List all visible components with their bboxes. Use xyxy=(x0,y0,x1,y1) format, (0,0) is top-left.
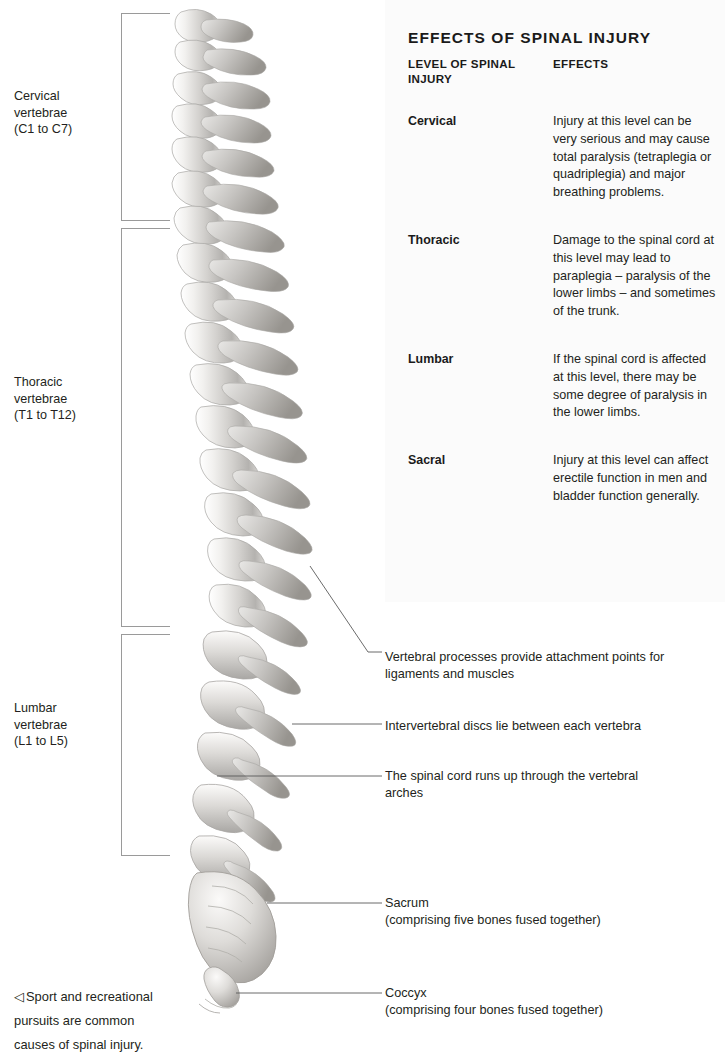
row-level-sacral: Sacral xyxy=(408,452,553,505)
bracket-lumbar xyxy=(121,634,170,856)
cervical-vertebrae-lower xyxy=(172,72,284,253)
row-level-lumbar: Lumbar xyxy=(408,351,553,422)
label-lumbar-line3: (L1 to L5) xyxy=(14,733,114,750)
leader-vertebral-processes xyxy=(310,566,382,652)
label-thoracic-line1: Thoracic xyxy=(14,374,114,391)
column-header-level-line2: injury xyxy=(408,72,553,87)
cervical-vertebrae-group xyxy=(175,9,266,75)
photo-caption-text1: Sport and recreational xyxy=(26,989,153,1004)
callout-sacrum-line2: (comprising five bones fused together) xyxy=(385,912,715,929)
photo-caption: ◁Sport and recreational pursuits are com… xyxy=(14,985,224,1053)
effects-of-spinal-injury-panel: EFFECTS OF SPINAL INJURY Level of spinal… xyxy=(385,0,725,602)
column-header-level-line1: Level of spinal xyxy=(408,57,553,72)
row-effect-sacral: Injury at this level can affect erectile… xyxy=(553,452,718,505)
row-level-thoracic: Thoracic xyxy=(408,232,553,321)
label-thoracic-line2: vertebrae xyxy=(14,391,114,408)
bracket-cervical xyxy=(121,13,170,221)
thoracic-vertebrae-group xyxy=(177,243,312,647)
table-header-row: Level of spinal injury Effects xyxy=(408,57,718,86)
table-row: Thoracic Damage to the spinal cord at th… xyxy=(408,232,718,321)
label-thoracic-line3: (T1 to T12) xyxy=(14,407,114,424)
callout-coccyx-line1: Coccyx xyxy=(385,985,715,1002)
column-header-level: Level of spinal injury xyxy=(408,57,553,86)
callout-coccyx-line2: (comprising four bones fused together) xyxy=(385,1002,715,1019)
callout-vertebral-processes: Vertebral processes provide attachment p… xyxy=(385,649,715,684)
label-cervical-vertebrae: Cervical vertebrae (C1 to C7) xyxy=(14,88,114,138)
label-lumbar-vertebrae: Lumbar vertebrae (L1 to L5) xyxy=(14,700,114,750)
label-cervical-line3: (C1 to C7) xyxy=(14,121,114,138)
table-row: Sacral Injury at this level can affect e… xyxy=(408,452,718,505)
row-effect-cervical: Injury at this level can be very serious… xyxy=(553,113,718,202)
callout-sacrum: Sacrum (comprising five bones fused toge… xyxy=(385,895,715,930)
panel-title: EFFECTS OF SPINAL INJURY xyxy=(408,29,651,47)
callout-sacrum-line1: Sacrum xyxy=(385,895,715,912)
triangle-marker-icon: ◁ xyxy=(14,990,24,1004)
label-thoracic-vertebrae: Thoracic vertebrae (T1 to T12) xyxy=(14,374,114,424)
callout-vertebral-processes-line1: Vertebral processes provide attachment p… xyxy=(385,649,715,666)
callout-intervertebral-discs: Intervertebral discs lie between each ve… xyxy=(385,718,715,735)
label-lumbar-line2: vertebrae xyxy=(14,717,114,734)
callout-spinal-cord-line1: The spinal cord runs up through the vert… xyxy=(385,768,715,785)
row-effect-thoracic: Damage to the spinal cord at this level … xyxy=(553,232,718,321)
callout-spinal-cord-line2: arches xyxy=(385,785,715,802)
lumbar-vertebrae-group xyxy=(191,631,301,902)
row-level-cervical: Cervical xyxy=(408,113,553,202)
photo-caption-line3: causes of spinal injury. xyxy=(14,1033,224,1053)
column-header-effects: Effects xyxy=(553,57,718,86)
label-cervical-line2: vertebrae xyxy=(14,105,114,122)
photo-caption-line2: pursuits are common xyxy=(14,1009,224,1033)
callout-spinal-cord: The spinal cord runs up through the vert… xyxy=(385,768,715,803)
photo-caption-line1: ◁Sport and recreational xyxy=(14,985,224,1009)
row-effect-lumbar: If the spinal cord is affected at this l… xyxy=(553,351,718,422)
label-cervical-line1: Cervical xyxy=(14,88,114,105)
header-spacer xyxy=(408,86,718,113)
table-row: Cervical Injury at this level can be ver… xyxy=(408,113,718,202)
effects-table: Level of spinal injury Effects Cervical … xyxy=(408,57,718,506)
bracket-thoracic xyxy=(121,228,170,627)
callout-intervertebral-discs-line1: Intervertebral discs lie between each ve… xyxy=(385,718,715,735)
table-row: Lumbar If the spinal cord is affected at… xyxy=(408,351,718,422)
callout-vertebral-processes-line2: ligaments and muscles xyxy=(385,666,715,683)
label-lumbar-line1: Lumbar xyxy=(14,700,114,717)
callout-coccyx: Coccyx (comprising four bones fused toge… xyxy=(385,985,715,1020)
